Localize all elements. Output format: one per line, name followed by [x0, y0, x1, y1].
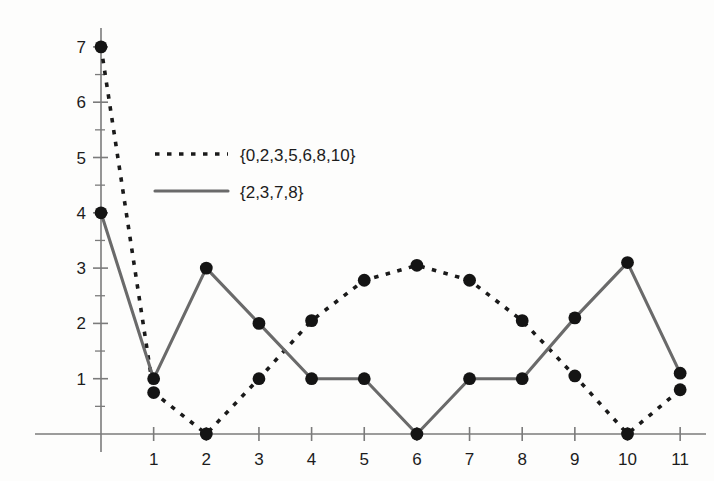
data-point-marker [516, 314, 529, 327]
data-point-marker [621, 256, 634, 269]
y-tick-label: 5 [77, 149, 86, 168]
line-chart-plot: 1234567 1234567891011 {0,2,3,5,6,8,10} {… [0, 0, 714, 481]
data-point-marker [463, 372, 476, 385]
chart-axes [35, 28, 706, 452]
legend-label-solid: {2,3,7,8} [240, 183, 304, 202]
y-tick-label: 2 [77, 314, 86, 333]
y-tick-label: 4 [77, 204, 86, 223]
x-tick-label: 6 [412, 450, 421, 469]
data-point-marker [674, 383, 687, 396]
x-tick-label: 5 [360, 450, 369, 469]
data-point-marker [253, 317, 266, 330]
chart-figure: 1234567 1234567891011 {0,2,3,5,6,8,10} {… [0, 0, 714, 481]
x-tick-label: 3 [254, 450, 263, 469]
x-tick-label: 9 [570, 450, 579, 469]
data-point-marker [411, 259, 424, 272]
chart-series-markers [95, 41, 687, 441]
y-tick-label: 3 [77, 259, 86, 278]
data-point-marker [147, 372, 160, 385]
data-point-marker [147, 386, 160, 399]
y-tick-label: 1 [77, 370, 86, 389]
x-tick-label: 2 [202, 450, 211, 469]
data-point-marker [305, 372, 318, 385]
x-tick-label: 4 [307, 450, 316, 469]
data-point-marker [411, 428, 424, 441]
data-point-marker [358, 372, 371, 385]
data-point-marker [358, 274, 371, 287]
legend-label-dashed: {0,2,3,5,6,8,10} [240, 146, 356, 165]
data-point-marker [463, 274, 476, 287]
x-tick-label: 10 [618, 450, 637, 469]
data-point-marker [95, 41, 108, 54]
x-axis-tick-labels: 1234567891011 [149, 450, 689, 469]
data-point-marker [95, 206, 108, 219]
data-point-marker [200, 428, 213, 441]
x-tick-label: 11 [671, 450, 689, 469]
x-tick-label: 1 [149, 450, 158, 469]
chart-legend: {0,2,3,5,6,8,10} {2,3,7,8} [155, 146, 356, 202]
data-point-marker [568, 370, 581, 383]
chart-series-lines [101, 47, 680, 434]
data-point-marker [200, 262, 213, 275]
y-axis-minor-ticks [95, 75, 105, 407]
y-axis-tick-labels: 1234567 [77, 38, 86, 389]
data-point-marker [516, 372, 529, 385]
y-tick-label: 6 [77, 93, 86, 112]
x-tick-label: 8 [517, 450, 526, 469]
data-point-marker [621, 428, 634, 441]
data-point-marker [305, 314, 318, 327]
x-tick-label: 7 [465, 450, 474, 469]
data-point-marker [674, 367, 687, 380]
series-line-dashed [101, 47, 680, 434]
series-line-solid [101, 213, 680, 434]
data-point-marker [568, 311, 581, 324]
data-point-marker [253, 372, 266, 385]
y-tick-label: 7 [77, 38, 86, 57]
